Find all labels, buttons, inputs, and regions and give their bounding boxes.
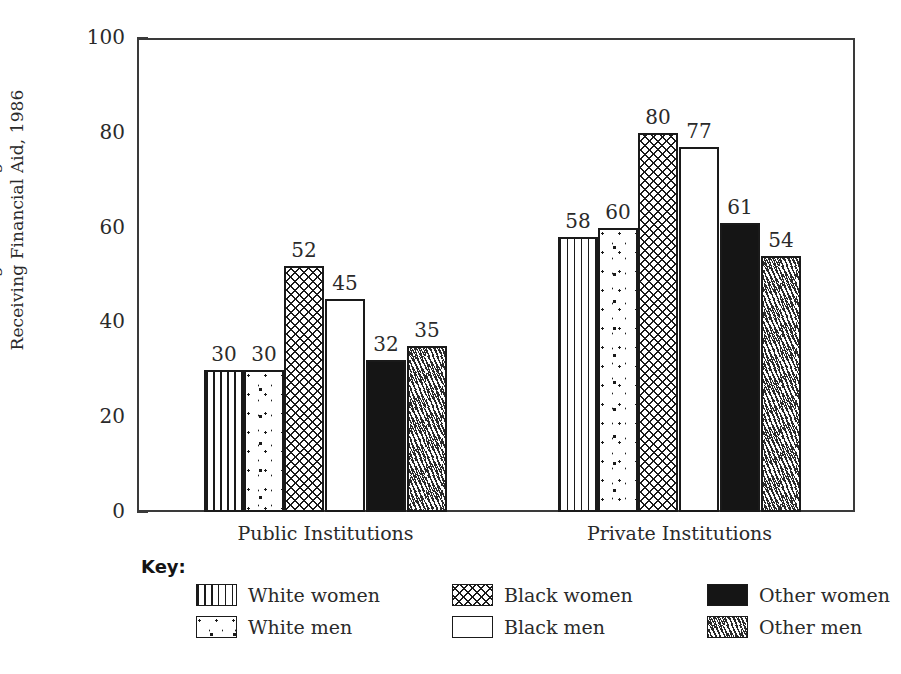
legend-swatch <box>196 584 237 606</box>
legend-swatch <box>452 584 493 606</box>
legend-item-label: Other women <box>759 582 890 608</box>
legend-swatch <box>707 616 748 638</box>
legend-item-label: White women <box>248 582 380 608</box>
legend-title: Key: <box>141 556 186 577</box>
legend-item-label: Black men <box>504 614 605 640</box>
legend-item-label: Black women <box>504 582 633 608</box>
legend-swatch <box>707 584 748 606</box>
legend-swatch <box>196 616 237 638</box>
legend-swatch <box>452 616 493 638</box>
legend-item-label: White men <box>248 614 352 640</box>
legend-item-label: Other men <box>759 614 862 640</box>
legend: Key: White womenWhite menBlack womenBlac… <box>0 0 901 674</box>
